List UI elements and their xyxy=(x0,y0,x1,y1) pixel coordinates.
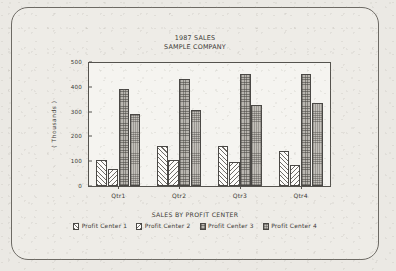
bar-qtr4-series2 xyxy=(290,165,301,186)
bar-group xyxy=(88,62,331,186)
legend-label-series1: Profit Center 1 xyxy=(82,223,128,229)
legend-item-series2: Profit Center 2 xyxy=(136,223,190,230)
y-axis-tick-label: 100 xyxy=(71,158,85,164)
x-axis-tick-label: Qtr2 xyxy=(172,192,186,199)
x-axis-tick-label: Qtr3 xyxy=(233,192,247,199)
legend-swatch-series2 xyxy=(136,223,142,230)
x-axis-tick-mark xyxy=(118,186,119,189)
legend-item-series4: Profit Center 4 xyxy=(263,223,317,230)
legend-label-series4: Profit Center 4 xyxy=(271,223,317,229)
document-frame: 1987 SALES SAMPLE COMPANY ( Thousands ) … xyxy=(11,7,379,260)
legend-label-series3: Profit Center 3 xyxy=(208,223,254,229)
bar-chart: 1987 SALES SAMPLE COMPANY ( Thousands ) … xyxy=(12,8,378,259)
x-axis-tick-mark xyxy=(240,186,241,189)
x-axis-tick-label: Qtr1 xyxy=(111,192,125,199)
legend-label-series2: Profit Center 2 xyxy=(145,223,191,229)
y-axis-tick-label: 500 xyxy=(71,59,85,65)
y-axis-tick-label: 200 xyxy=(71,133,85,139)
x-axis-tick-mark xyxy=(301,186,302,189)
legend-swatch-series3 xyxy=(200,223,206,230)
legend-swatch-series1 xyxy=(73,223,79,230)
bar-qtr4-series4 xyxy=(312,103,323,186)
x-axis-tick-label: Qtr4 xyxy=(294,192,308,199)
y-axis-tick-label: 400 xyxy=(71,84,85,90)
y-axis-tick-label: 300 xyxy=(71,109,85,115)
legend-item-series1: Profit Center 1 xyxy=(73,223,127,230)
x-axis-tick-mark xyxy=(179,186,180,189)
legend-item-series3: Profit Center 3 xyxy=(200,223,254,230)
bar-qtr4-series1 xyxy=(279,151,290,186)
bar-qtr4-series3 xyxy=(301,74,312,186)
chart-footer-title: SALES BY PROFIT CENTER xyxy=(12,211,378,218)
y-axis-tick-label: 0 xyxy=(78,183,85,189)
bars-layer xyxy=(88,62,331,186)
chart-legend: Profit Center 1Profit Center 2Profit Cen… xyxy=(12,223,378,230)
legend-swatch-series4 xyxy=(263,223,269,230)
